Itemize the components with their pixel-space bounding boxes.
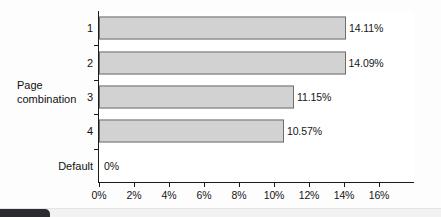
y-tick-label: 3 (87, 91, 93, 103)
y-axis-title-line-2: combination (17, 93, 95, 107)
x-axis-tick (379, 182, 380, 187)
x-tick-label: 16% (369, 189, 390, 201)
chart-row: Default 0% (99, 149, 414, 183)
chart-row: 1 14.11% (99, 11, 414, 45)
bottom-chrome-strip (0, 208, 441, 217)
bar-value-label: 11.15% (297, 91, 331, 103)
chart-row: 3 11.15% (99, 80, 414, 114)
x-tick-label: 0% (92, 189, 107, 201)
x-axis-tick (204, 182, 205, 187)
x-tick-label: 14% (334, 189, 355, 201)
x-axis-tick (99, 182, 100, 187)
x-tick-label: 8% (232, 189, 247, 201)
x-tick-label: 12% (299, 189, 320, 201)
y-tick-label: Default (58, 160, 93, 172)
y-axis-title-line-1: Page (17, 79, 43, 91)
bar (99, 17, 346, 40)
x-tick-label: 10% (264, 189, 285, 201)
bar (99, 120, 284, 143)
bar-value-label: 14.09% (349, 57, 384, 69)
plot-area: 1 14.11% 2 14.09% 3 11.15% 4 10.57% Defa (98, 11, 414, 183)
x-axis-tick (169, 182, 170, 187)
x-tick-label: 4% (162, 189, 177, 201)
bar-value-label: 10.57% (287, 125, 322, 137)
x-tick-label: 6% (197, 189, 212, 201)
y-axis-title: Page combination (17, 79, 95, 106)
y-tick-label: 1 (87, 22, 93, 34)
bar-chart-figure: Page combination 1 14.11% 2 14.09% 3 11.… (0, 0, 441, 217)
chart-row: 2 14.09% (99, 45, 414, 79)
y-tick-label: 4 (87, 125, 93, 137)
x-axis-tick (274, 182, 275, 187)
bar (99, 51, 346, 74)
bottom-chrome-tab (0, 209, 50, 217)
chart-row: 4 10.57% (99, 114, 414, 148)
bar-value-label: 0% (104, 160, 119, 172)
x-axis-tick (134, 182, 135, 187)
x-axis-tick (344, 182, 345, 187)
bar (99, 85, 294, 108)
x-axis-tick (239, 182, 240, 187)
y-tick-label: 2 (87, 57, 93, 69)
x-axis-tick (309, 182, 310, 187)
x-tick-label: 2% (127, 189, 142, 201)
bar-value-label: 14.11% (349, 22, 383, 34)
